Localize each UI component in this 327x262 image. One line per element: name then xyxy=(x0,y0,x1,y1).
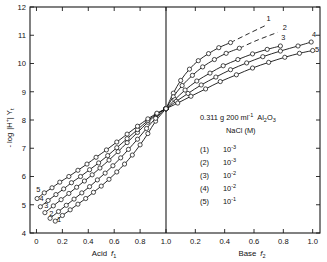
legend-value: 10-3 xyxy=(223,157,236,167)
data-point xyxy=(67,191,71,195)
annotation-line-2: NaCl (M) xyxy=(226,126,256,135)
data-point xyxy=(115,170,119,174)
data-point xyxy=(208,71,212,75)
data-point xyxy=(130,153,134,157)
x-left-subscript: 1 xyxy=(113,253,116,259)
data-point xyxy=(154,116,158,120)
legend-value: 10-3 xyxy=(223,144,236,154)
data-point xyxy=(214,75,218,79)
y-tick-label: 9 xyxy=(22,88,26,97)
legend-index: (2) xyxy=(200,158,209,167)
data-point xyxy=(125,132,129,136)
data-point xyxy=(43,211,47,215)
x-tick-label-left: 1.0 xyxy=(161,237,172,246)
data-point xyxy=(115,146,119,150)
data-point xyxy=(54,192,58,196)
data-point xyxy=(196,59,200,63)
data-point xyxy=(179,78,183,82)
legend-index: (4) xyxy=(200,184,209,193)
data-point xyxy=(250,52,254,56)
data-point xyxy=(50,186,54,190)
data-point xyxy=(35,196,39,200)
x-tick-label-right: 0.8 xyxy=(278,237,289,246)
data-point xyxy=(201,65,205,69)
legend-index: (3) xyxy=(200,171,209,180)
data-point xyxy=(72,197,76,201)
annotation-block: 0.311 g 200 ml-1Al2O3 NaCl (M) (1)10-3(2… xyxy=(200,112,276,206)
y-axis-label: -log|H+|Yt xyxy=(4,108,15,147)
data-point xyxy=(98,166,102,170)
data-point xyxy=(217,46,221,50)
data-point xyxy=(278,44,282,48)
data-point xyxy=(106,153,110,157)
x-tick-label-right: 1.0 xyxy=(307,237,318,246)
data-point xyxy=(296,44,300,48)
data-point xyxy=(245,61,249,65)
data-point xyxy=(84,196,88,200)
data-point xyxy=(204,87,208,91)
data-point xyxy=(122,162,126,166)
data-point xyxy=(199,83,203,87)
data-point xyxy=(75,185,79,189)
data-point xyxy=(135,124,139,128)
data-point xyxy=(237,46,241,50)
y-label-h: |H xyxy=(5,122,14,129)
data-point xyxy=(78,174,82,178)
data-point xyxy=(103,171,107,175)
y-tick-label: 5 xyxy=(22,201,26,210)
data-point xyxy=(309,40,313,44)
data-point xyxy=(146,117,150,121)
x-axis-label-left: Acidf1 xyxy=(92,249,116,259)
data-point xyxy=(51,204,55,208)
data-point xyxy=(278,49,282,53)
data-point xyxy=(265,47,269,51)
data-point xyxy=(125,141,129,145)
data-point xyxy=(116,150,120,154)
y-tick-label: 7 xyxy=(22,144,26,153)
data-point xyxy=(221,64,225,68)
curve-label-left-3: 3 xyxy=(44,201,48,210)
x-left-label-text: Acid xyxy=(92,249,107,258)
data-point xyxy=(126,147,130,151)
data-point xyxy=(135,137,139,141)
x-tick-label-right: 0.2 xyxy=(190,237,201,246)
curve-label-right-4: 4 xyxy=(312,30,316,39)
curve-label-left-5: 5 xyxy=(36,185,40,194)
data-point xyxy=(125,137,129,141)
legend-value: 10-1 xyxy=(223,196,236,206)
curve-dashed-1 xyxy=(231,25,266,42)
y-label-log: log xyxy=(5,133,14,143)
data-point xyxy=(212,57,216,61)
legend-index: (1) xyxy=(200,145,209,154)
data-point xyxy=(146,131,150,135)
curve-label-left-4: 4 xyxy=(40,194,44,203)
data-point xyxy=(68,208,72,212)
curve-label-right-3: 3 xyxy=(281,33,285,42)
legend-value: 10-2 xyxy=(223,183,236,193)
data-point xyxy=(283,55,287,59)
data-point xyxy=(69,181,73,185)
data-point xyxy=(94,155,98,159)
data-point xyxy=(261,55,265,59)
x-tick-label-left: 0.6 xyxy=(109,237,120,246)
x-tick-label-left: 0.2 xyxy=(57,237,68,246)
curve-labels: 1234554321 xyxy=(36,14,319,224)
data-point xyxy=(250,66,254,70)
y-tick-label: 12 xyxy=(18,3,26,12)
data-point xyxy=(76,202,80,206)
data-point xyxy=(236,57,240,61)
y-tick-label: 4 xyxy=(22,229,26,238)
data-point xyxy=(90,173,94,177)
data-point xyxy=(104,148,108,152)
legend-index: (5) xyxy=(200,197,209,206)
data-point xyxy=(85,162,89,166)
data-point xyxy=(195,79,199,83)
curve-label-right-2: 2 xyxy=(283,23,287,32)
curve-label-left-2: 2 xyxy=(49,209,53,218)
data-point xyxy=(67,174,71,178)
data-point xyxy=(56,209,60,213)
data-point xyxy=(267,60,271,64)
svg-text:Basef2: Basef2 xyxy=(238,249,265,259)
legend-rows: (1)10-3(2)10-3(3)10-2(4)10-2(5)10-1 xyxy=(200,144,236,206)
curve-2 xyxy=(50,109,166,219)
